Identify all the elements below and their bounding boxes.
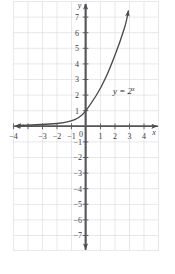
x-tick-label-2: 2 [113,132,117,141]
coordinate-plane: −4 −3 −2 −1 0 1 2 3 4 7 6 5 4 3 2 1 −1 −… [0,0,175,274]
y-tick-label-neg1: −1 [73,138,82,147]
y-tick-label-neg5: −5 [73,200,82,209]
x-axis-label: x [151,128,156,137]
y-tick-label-6: 6 [75,29,79,38]
x-tick-label-4: 4 [142,132,146,141]
plot-background [0,0,175,274]
x-tick-label-neg3: −3 [38,132,47,141]
curve-equation-label: y = 2x [112,86,135,96]
x-tick-label-3: 3 [128,132,132,141]
y-axis-label: y [77,1,82,10]
y-tick-label-1: 1 [75,107,79,116]
y-tick-label-5: 5 [75,44,79,53]
y-tick-label-neg2: −2 [73,153,82,162]
x-tick-label-1: 1 [99,132,103,141]
graph-figure: −4 −3 −2 −1 0 1 2 3 4 7 6 5 4 3 2 1 −1 −… [0,0,175,274]
x-tick-label-neg2: −2 [53,132,62,141]
curve-equation-base: y = 2 [112,86,133,96]
svg-text:y = 2x: y = 2x [112,86,135,96]
curve-equation-exponent: x [131,86,135,92]
y-tick-label-neg3: −3 [73,169,82,178]
y-tick-label-neg4: −4 [73,185,82,194]
y-tick-label-3: 3 [75,75,79,84]
y-tick-label-2: 2 [75,91,79,100]
x-tick-label-neg4: −4 [9,132,18,141]
y-tick-label-neg6: −6 [73,216,82,225]
y-tick-label-neg7: −7 [73,231,82,240]
y-tick-label-7: 7 [75,13,79,22]
y-tick-label-4: 4 [75,60,79,69]
